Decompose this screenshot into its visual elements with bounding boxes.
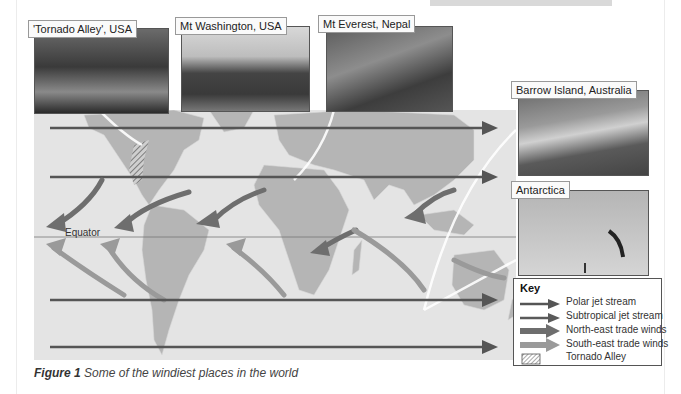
key-item-tornado-alley: Tornado Alley [520,351,660,365]
thick-arrow-icon [520,324,560,338]
kite-skier-graphic [519,191,648,275]
photo-label-antarctica: Antarctica [511,181,570,199]
photo-label-mt-everest: Mt Everest, Nepal [318,15,415,33]
key-item-se-trade: South-east trade winds [520,338,660,352]
key-label: Subtropical jet stream [566,310,663,321]
key-item-ne-trade: North-east trade winds [520,324,660,338]
key-label: South-east trade winds [566,338,668,349]
photo-barrow-island [518,90,649,176]
figure-caption-text: Some of the windiest places in the world [84,366,298,380]
map-key: Key Polar jet stream Subtropical jet str… [513,278,662,366]
photo-antarctica [518,190,649,276]
top-grey-bar [430,0,612,6]
thin-arrow-icon [520,312,560,324]
photo-mt-everest [326,26,453,112]
photo-label-tornado-alley: 'Tornado Alley', USA [28,20,137,38]
key-item-polar-jet: Polar jet stream [520,296,660,310]
page-edge-left [16,0,17,394]
figure-caption: Figure 1 Some of the windiest places in … [34,366,298,380]
equator-label: Equator [65,227,100,238]
world-map [34,110,516,360]
key-item-subtropical-jet: Subtropical jet stream [520,310,660,324]
photo-mt-washington [181,26,310,112]
figure-number: Figure 1 [34,366,81,380]
key-label: Tornado Alley [566,351,626,362]
hatched-box-icon [520,353,560,365]
key-label: North-east trade winds [566,324,667,335]
photo-label-mt-washington: Mt Washington, USA [175,17,287,35]
key-label: Polar jet stream [566,296,636,307]
photo-label-barrow-island: Barrow Island, Australia [511,81,637,99]
land-masses [84,110,516,355]
thick-arrow-icon [520,338,560,352]
thin-arrow-icon [520,298,560,310]
key-title: Key [520,282,540,294]
photo-tornado-alley [34,28,169,114]
polar-jet-south [50,340,498,354]
world-map-graphic [34,110,516,360]
